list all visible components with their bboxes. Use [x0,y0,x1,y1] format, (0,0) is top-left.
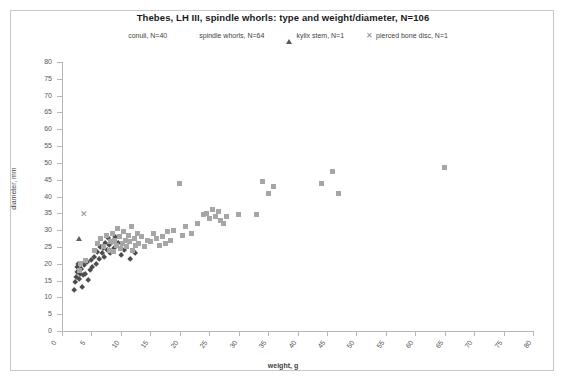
y-tick-label: 20 [30,260,52,267]
y-tick [57,213,62,214]
x-tick-label: 25 [199,339,209,349]
x-tick [150,331,151,336]
data-point-square [271,184,276,189]
x-tick-label: 45 [316,339,326,349]
data-point-square [330,169,335,174]
y-tick-label: 15 [30,277,52,284]
y-tick [57,163,62,164]
y-tick-label: 70 [30,92,52,99]
y-tick [57,112,62,113]
x-tick-label: 15 [140,339,150,349]
x-tick [62,331,63,336]
y-tick-label: 55 [30,142,52,149]
y-tick-label: 0 [30,327,52,334]
x-tick-label: 60 [405,339,415,349]
y-tick [57,79,62,80]
x-tick [415,331,416,336]
data-point-square [442,165,447,170]
data-point-square [129,224,134,229]
data-point-square [110,231,115,236]
data-point-diamond [118,252,124,258]
x-tick [327,331,328,336]
data-point-square [136,241,141,246]
y-tick [57,264,62,265]
x-tick [356,331,357,336]
x-tick-label: 40 [287,339,297,349]
y-tick-label: 65 [30,108,52,115]
y-tick [57,96,62,97]
data-point-square [130,248,135,253]
data-point-square [260,179,265,184]
data-point-square [98,236,103,241]
x-tick-label: 65 [434,339,444,349]
x-tick-label: 0 [50,339,58,346]
y-tick [57,314,62,315]
data-point-square [104,233,109,238]
data-point-square [117,234,122,239]
data-point-square [154,236,159,241]
x-tick-label: 75 [493,339,503,349]
x-tick [298,331,299,336]
y-tick [57,230,62,231]
y-tick-label: 10 [30,293,52,300]
y-tick-label: 25 [30,243,52,250]
data-point-square [213,214,218,219]
data-point-square [160,234,165,239]
x-tick-label: 10 [110,339,120,349]
data-point-square [148,239,153,244]
y-tick [57,146,62,147]
data-point-square [95,241,100,246]
data-point-square [168,238,173,243]
y-tick [57,129,62,130]
data-point-square [139,234,144,239]
data-point-square [165,229,170,234]
x-tick-label: 20 [169,339,179,349]
data-point-square [177,181,182,186]
y-tick [57,180,62,181]
x-tick-label: 50 [346,339,356,349]
data-point-square [224,214,229,219]
plot-area: 05101520253035404550556065707580 0510152… [0,0,566,383]
x-tick-label: 80 [522,339,532,349]
y-tick-label: 80 [30,58,52,65]
x-tick-label: 70 [463,339,473,349]
data-point-square [124,244,129,249]
y-tick [57,281,62,282]
data-point-cross: ✕ [80,211,88,217]
x-tick [91,331,92,336]
data-point-diamond [71,288,77,294]
data-point-diamond [85,277,91,283]
y-tick-label: 75 [30,75,52,82]
x-tick-label: 30 [228,339,238,349]
data-point-square [142,244,147,249]
x-tick [474,331,475,336]
data-point-square [111,249,116,254]
y-tick-label: 50 [30,159,52,166]
data-point-square [118,246,123,251]
y-tick-label: 40 [30,193,52,200]
data-point-diamond [79,284,85,290]
data-point-diamond [101,254,107,260]
data-point-square [254,212,259,217]
x-tick [239,331,240,336]
data-point-square [163,241,168,246]
y-tick-label: 35 [30,209,52,216]
data-point-square [221,221,226,226]
y-axis-title: diameter, mm [10,167,17,209]
data-point-square [157,243,162,248]
y-axis-line [62,62,63,332]
y-tick-label: 60 [30,125,52,132]
data-point-square [216,209,221,214]
x-axis-title: weight, g [0,362,566,369]
y-tick-label: 45 [30,176,52,183]
y-tick-label: 30 [30,226,52,233]
x-tick [209,331,210,336]
data-point-square [236,212,241,217]
data-point-square [92,248,97,253]
x-tick [386,331,387,336]
data-point-square [207,216,212,221]
data-point-square [195,221,200,226]
data-point-square [336,191,341,196]
x-tick-label: 5 [79,339,87,346]
y-tick-label: 5 [30,310,52,317]
